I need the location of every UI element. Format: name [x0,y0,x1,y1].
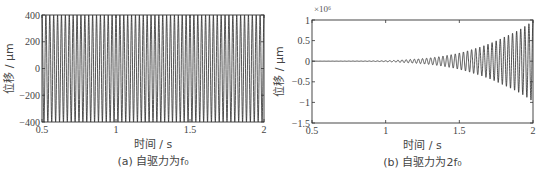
figure-caption-a: (a) 自驱力为f₀ [117,155,189,168]
x-tick-label: 2 [531,125,536,136]
y-tick-label: −400 [19,117,40,128]
y-tick-label: −1 [299,97,310,108]
figure-caption-b: (b) 自驱力为2f₀ [383,156,462,169]
x-axis-title: 时间 / s [403,139,442,152]
y-axis-title: 位移 / μm [2,43,16,93]
y-tick-label: −200 [19,90,40,101]
chart-panel-b: 0.511.5210.50−0.5−1−1.5×10⁶位移 / μm时间 / s… [270,0,541,174]
plot-frame-b [312,20,533,123]
x-tick-label: 2 [262,124,267,135]
data-line-a [42,15,264,122]
y-axis-multiplier: ×10⁶ [314,4,331,14]
y-tick-label: 200 [25,36,40,47]
y-tick-label: 1 [305,15,310,26]
y-axis-title: 位移 / μm [272,46,286,96]
y-tick-label: 0.5 [298,35,311,46]
x-tick-label: 1 [114,124,119,135]
y-tick-label: 0 [35,63,40,74]
chart-a-svg: 0.511.524002000−200−400位移 / μm时间 / s(a) … [0,0,270,174]
x-tick-label: 1 [383,125,388,136]
chart-b-svg: 0.511.5210.50−0.5−1−1.5×10⁶位移 / μm时间 / s… [270,0,541,174]
y-tick-label: −0.5 [292,76,310,87]
y-tick-label: 400 [25,10,40,21]
y-tick-label: 0 [305,56,310,67]
x-tick-label: 1.5 [453,125,466,136]
chart-panel-a: 0.511.524002000−200−400位移 / μm时间 / s(a) … [0,0,270,174]
data-line-b [312,21,533,100]
x-tick-label: 1.5 [184,124,197,135]
y-tick-label: −1.5 [292,118,310,129]
x-axis-title: 时间 / s [134,138,173,151]
